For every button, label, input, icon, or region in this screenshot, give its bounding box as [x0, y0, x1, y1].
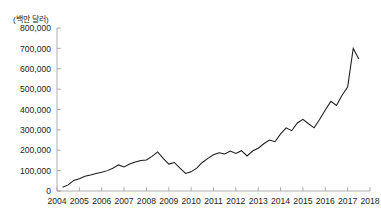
- x-axis-tick-label: 2004: [47, 196, 66, 206]
- y-axis-tick-label: 400,000: [20, 105, 51, 115]
- x-axis-tick-label: 2009: [159, 196, 178, 206]
- data-series-line: [63, 48, 359, 187]
- x-axis-tick-label: 2016: [316, 196, 335, 206]
- x-axis-tick-label: 2015: [293, 196, 312, 206]
- y-axis-tick-label: 300,000: [20, 125, 51, 135]
- x-axis-tick-label: 2007: [115, 196, 134, 206]
- x-axis-tick-labels: 2004200520062007200820092010201120122013…: [47, 196, 379, 206]
- x-axis-tick-label: 2005: [70, 196, 89, 206]
- y-axis-tick-label: 200,000: [20, 145, 51, 155]
- x-axis-tick-label: 2008: [137, 196, 156, 206]
- y-axis-tick-label: 500,000: [20, 84, 51, 94]
- y-axis-tick-label: 700,000: [20, 44, 51, 54]
- y-axis-tick-label: 600,000: [20, 64, 51, 74]
- chart-container: (백만 달러) 0100,000200,000300,000400,000500…: [0, 0, 381, 211]
- x-axis-tick-label: 2010: [182, 196, 201, 206]
- y-axis-tick-marks: [57, 28, 61, 191]
- y-axis-tick-label: 0: [46, 186, 51, 196]
- x-axis-tick-label: 2014: [271, 196, 290, 206]
- x-axis-tick-label: 2011: [204, 196, 223, 206]
- x-axis-tick-label: 2006: [92, 196, 111, 206]
- y-axis-tick-label: 800,000: [20, 23, 51, 33]
- x-axis-tick-label: 2013: [249, 196, 268, 206]
- y-axis-tick-labels: 0100,000200,000300,000400,000500,000600,…: [20, 23, 51, 196]
- x-axis-tick-marks: [57, 187, 370, 191]
- x-axis-tick-label: 2018: [360, 196, 379, 206]
- line-chart-plot: 0100,000200,000300,000400,000500,000600,…: [0, 0, 381, 211]
- x-axis-tick-label: 2012: [226, 196, 245, 206]
- y-axis-tick-label: 100,000: [20, 166, 51, 176]
- x-axis-tick-label: 2017: [338, 196, 357, 206]
